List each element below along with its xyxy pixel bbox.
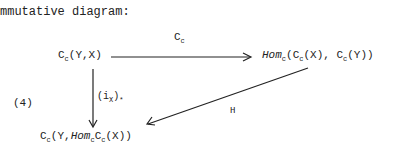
arrow-diagonal-head bbox=[147, 117, 155, 125]
arrow-diagonal bbox=[148, 68, 308, 124]
diagram-arrows bbox=[0, 0, 400, 164]
